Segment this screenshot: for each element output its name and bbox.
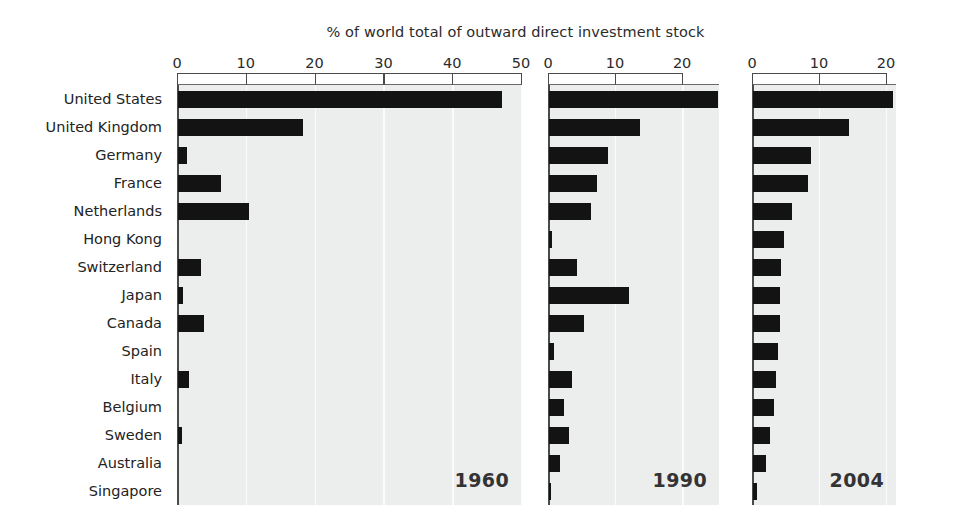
bar — [178, 203, 249, 220]
axis-tick — [886, 73, 887, 85]
category-label: Italy — [131, 365, 162, 393]
axis-tick — [452, 73, 453, 85]
bar — [178, 287, 183, 304]
axis-tick — [246, 73, 247, 85]
axis-tick — [521, 73, 522, 85]
bar — [549, 119, 640, 136]
tick-axis-2004: 01020 — [752, 62, 896, 85]
bar — [549, 483, 551, 500]
category-label: Germany — [95, 141, 162, 169]
category-label: Switzerland — [77, 253, 162, 281]
category-label: Hong Kong — [83, 225, 162, 253]
axis-tick-label: 20 — [877, 55, 895, 71]
axis-tick-label: 50 — [512, 55, 530, 71]
category-label: Netherlands — [74, 197, 162, 225]
axis-tick-label: 20 — [305, 55, 323, 71]
axis-tick — [383, 73, 384, 85]
bar — [753, 231, 784, 248]
panel-year-label: 2004 — [830, 469, 884, 491]
gridline — [819, 85, 820, 505]
axis-tick-label: 10 — [237, 55, 255, 71]
bar — [549, 427, 569, 444]
bar — [178, 259, 201, 276]
bar — [549, 287, 629, 304]
axis-tick-label: 0 — [172, 55, 181, 71]
bar — [549, 259, 577, 276]
bar — [753, 287, 780, 304]
axis-tick — [548, 73, 549, 85]
chart-panel-1990: 1990 — [548, 85, 719, 505]
category-label: Singapore — [89, 477, 162, 505]
axis-tick — [615, 73, 616, 85]
bar — [178, 147, 187, 164]
gridline — [383, 85, 384, 505]
bar — [549, 371, 572, 388]
bar — [549, 203, 591, 220]
bar — [178, 427, 182, 444]
bar — [753, 371, 776, 388]
axis-tick — [752, 73, 753, 85]
tick-axis-1990: 01020 — [548, 62, 719, 85]
chart-panel-2004: 2004 — [752, 85, 896, 505]
bar — [549, 315, 584, 332]
chart-panel-1960: 1960 — [177, 85, 521, 505]
bar — [753, 399, 774, 416]
panel-year-label: 1990 — [653, 469, 707, 491]
bar — [753, 91, 893, 108]
tick-rule — [177, 73, 521, 74]
bar — [753, 483, 757, 500]
bar — [753, 343, 778, 360]
category-label: Belgium — [103, 393, 162, 421]
bar — [549, 343, 554, 360]
bar — [753, 427, 770, 444]
category-label: Canada — [107, 309, 162, 337]
bar — [549, 455, 560, 472]
bar — [753, 259, 781, 276]
gridline — [521, 85, 522, 505]
axis-tick-label: 10 — [606, 55, 624, 71]
bar — [549, 91, 718, 108]
axis-tick-label: 10 — [810, 55, 828, 71]
axis-tick-label: 30 — [374, 55, 392, 71]
axis-tick-label: 40 — [443, 55, 461, 71]
bar — [178, 119, 303, 136]
bar — [753, 315, 780, 332]
bar — [178, 175, 221, 192]
bar — [178, 371, 189, 388]
bar — [549, 399, 564, 416]
panel-year-label: 1960 — [455, 469, 509, 491]
axis-tick — [819, 73, 820, 85]
bar — [178, 315, 204, 332]
axis-tick — [315, 73, 316, 85]
tick-axis-1960: 01020304050 — [177, 62, 521, 85]
axis-tick-label: 20 — [673, 55, 691, 71]
axis-tick-label: 0 — [543, 55, 552, 71]
chart-figure: % of world total of outward direct inves… — [0, 0, 961, 531]
axis-tick-label: 0 — [747, 55, 756, 71]
category-label: Japan — [122, 281, 162, 309]
category-label: Sweden — [105, 421, 162, 449]
axis-tick — [682, 73, 683, 85]
bar — [753, 455, 766, 472]
category-label: United Kingdom — [46, 113, 162, 141]
bar — [753, 147, 811, 164]
chart-title: % of world total of outward direct inves… — [0, 24, 961, 40]
axis-tick — [177, 73, 178, 85]
bar — [549, 231, 552, 248]
category-label: France — [114, 169, 162, 197]
gridline — [315, 85, 316, 505]
bar — [549, 175, 597, 192]
gridline — [682, 85, 683, 505]
gridline — [246, 85, 247, 505]
bar — [549, 147, 608, 164]
gridline — [886, 85, 887, 505]
category-label: Australia — [98, 449, 162, 477]
category-axis: United StatesUnited KingdomGermanyFrance… — [0, 85, 170, 505]
bar — [753, 119, 849, 136]
category-label: Spain — [121, 337, 162, 365]
bar — [753, 175, 808, 192]
bar — [753, 203, 792, 220]
category-label: United States — [64, 85, 162, 113]
gridline — [452, 85, 453, 505]
bar — [178, 91, 502, 108]
